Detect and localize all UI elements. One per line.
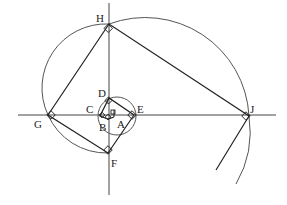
right-angle-markers [47,24,250,154]
label-C: C [86,103,93,115]
label-E: E [137,103,144,115]
label-B: B [99,121,106,133]
label-A: A [117,118,125,130]
spiral-segments [48,24,249,170]
label-D: D [98,87,106,99]
label-H: H [96,12,104,24]
large-arc-right [109,18,250,184]
label-G: G [34,118,42,130]
label-J: J [250,103,255,115]
spiral-diagram: H J G F E D C B A [0,0,287,205]
label-F: F [111,157,117,169]
diagram-canvas: H J G F E D C B A [0,0,287,205]
